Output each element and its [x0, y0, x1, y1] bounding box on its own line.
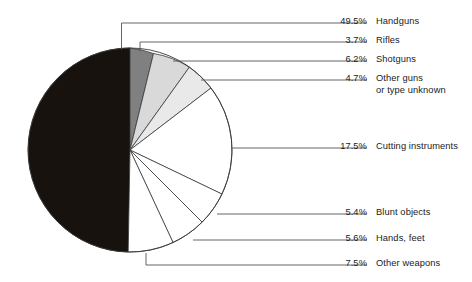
callout-label-other-weapons: Other weapons: [376, 258, 472, 270]
callout-label-cutting-instruments: Cutting instruments: [376, 141, 472, 153]
callout-pct-cutting-instruments: 17.5%: [305, 141, 367, 152]
pie-chart-figure: 49.5% Handguns 3.7% Rifles 6.2% Shotguns…: [0, 0, 472, 282]
callout-pct-handguns: 49.5%: [305, 16, 367, 27]
callout-label-rifles: Rifles: [376, 35, 472, 47]
callout-label-hands-feet: Hands, feet: [376, 233, 472, 245]
callout-pct-rifles: 3.7%: [305, 35, 367, 46]
callout-pct-blunt-objects: 5.4%: [305, 207, 367, 218]
callout-labels: 49.5% Handguns 3.7% Rifles 6.2% Shotguns…: [0, 0, 472, 282]
callout-pct-other-weapons: 7.5%: [305, 258, 367, 269]
callout-label-blunt-objects: Blunt objects: [376, 207, 472, 219]
callout-pct-hands-feet: 5.6%: [305, 233, 367, 244]
callout-label-shotguns: Shotguns: [376, 54, 472, 66]
callout-pct-shotguns: 6.2%: [305, 54, 367, 65]
callout-pct-other-guns: 4.7%: [305, 73, 367, 84]
callout-label-handguns: Handguns: [376, 16, 472, 28]
callout-label-other-guns: Other guns or type unknown: [376, 73, 472, 96]
